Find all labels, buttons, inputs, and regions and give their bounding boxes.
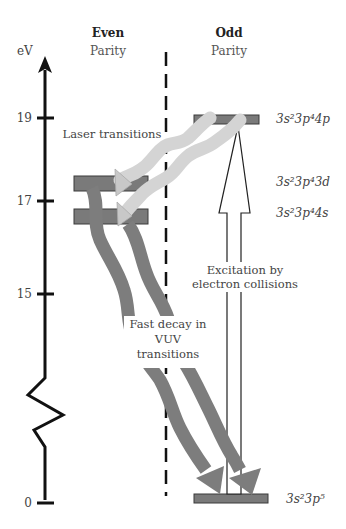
laser-transitions-label: Laser transitions [63, 127, 162, 141]
config-label-4s: 3s²3p⁴4s [276, 206, 329, 220]
decay-label-line3: transitions [137, 347, 200, 361]
excitation-label-line1: Excitation by [207, 263, 284, 277]
config-label-3d: 3s²3p⁴3d [276, 175, 330, 189]
even-parity-title: Even [92, 26, 125, 40]
decay-label-line2: VUV [154, 332, 182, 346]
axis-unit-label: eV [17, 44, 33, 58]
config-label-4p: 3s²3p⁴4p [276, 112, 330, 126]
decay-label-line1: Fast decay in [130, 317, 208, 331]
energy-axis: eV 19 17 15 0 [17, 44, 63, 510]
axis-line [28, 70, 63, 500]
tick-label-19: 19 [17, 111, 32, 125]
config-label-ground: 3s²3p⁵ [286, 492, 325, 506]
odd-parity-title: Odd [215, 26, 243, 40]
level-bar-ground [194, 494, 268, 503]
level-bar-4s [74, 209, 148, 224]
tick-label-17: 17 [17, 194, 32, 208]
tick-label-15: 15 [17, 287, 32, 301]
energy-level-diagram: Even Parity Odd Parity eV 19 17 15 0 [0, 0, 346, 529]
even-parity-subtitle: Parity [90, 44, 126, 58]
tick-label-0: 0 [24, 496, 32, 510]
excitation-label-line2: electron collisions [192, 277, 298, 291]
odd-parity-subtitle: Parity [211, 44, 247, 58]
